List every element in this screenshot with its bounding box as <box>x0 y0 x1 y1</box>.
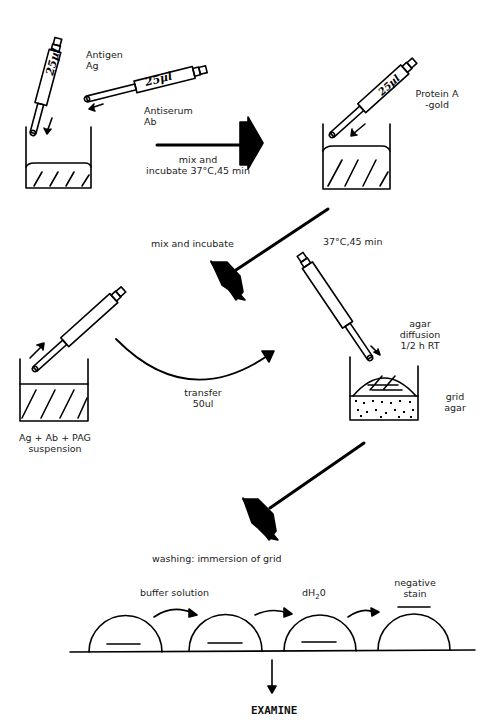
transfer-arrow-icon <box>116 339 270 380</box>
beaker-1 <box>26 127 91 188</box>
label-dh2o: dH20 <box>302 587 326 603</box>
label-grid-agar: gridagar <box>440 391 470 413</box>
label-protein-a-gold: Protein A-gold <box>412 88 462 110</box>
label-examine: EXAMINE <box>251 704 297 717</box>
label-mix-and-incubate: mix and incubate <box>151 238 234 249</box>
pipette-volume-label: 25µl <box>43 47 63 78</box>
label-transfer: transfer50ul <box>183 387 223 409</box>
label-temp-time: 37°C,45 min <box>323 236 383 247</box>
label-agar-diffusion: agardiffusion1/2 h RT <box>394 318 446 351</box>
pipette-protein-a <box>326 56 418 141</box>
beaker-3 <box>20 359 88 421</box>
label-negative-stain: negativestain <box>390 577 440 599</box>
washing-stage <box>70 607 475 652</box>
beaker-2 <box>323 124 390 189</box>
label-washing: washing: immersion of grid <box>152 553 282 564</box>
label-antiserum: AntiserumAb <box>144 105 193 127</box>
pipette-agar <box>295 251 376 363</box>
big-arrow-down-left-icon <box>243 443 364 540</box>
label-mix-incubate-1: mix andincubate 37°C,45 min <box>140 154 256 176</box>
label-buffer-solution: buffer solution <box>140 587 209 598</box>
beaker-agar <box>350 357 418 420</box>
label-suspension: Ag + Ab + PAGsuspension <box>10 432 100 454</box>
label-antigen: AntigenAg <box>86 49 123 71</box>
arrow-small-icon <box>30 347 41 358</box>
big-arrow-down-left-icon <box>211 209 328 300</box>
pipette-volume-label: 25µl <box>143 70 174 90</box>
pipette-transfer <box>29 285 127 375</box>
